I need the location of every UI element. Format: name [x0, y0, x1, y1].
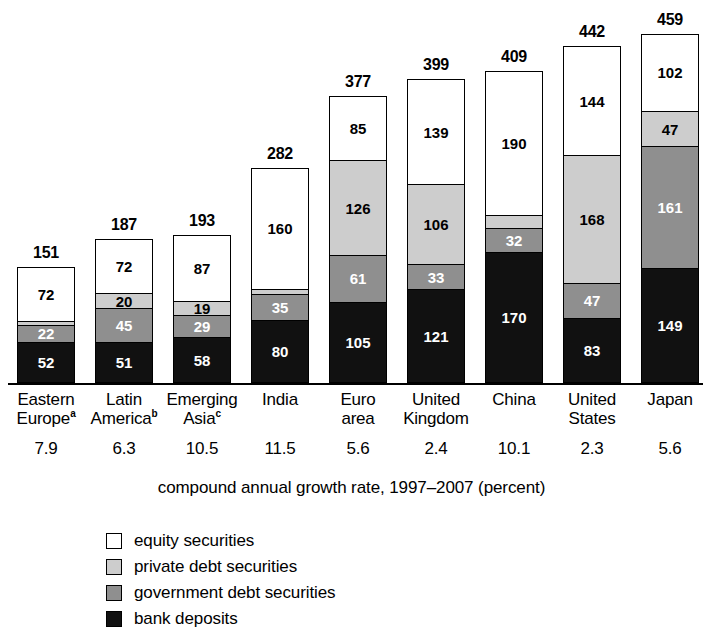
- bar-total-label: 399: [423, 56, 449, 74]
- bar-stack[interactable]: 522272: [17, 267, 75, 383]
- bar-segment-label: 20: [116, 294, 133, 309]
- bar-stack[interactable]: 1056112685: [329, 96, 387, 383]
- bar-segment-label: 106: [423, 217, 448, 232]
- axis-caption: compound annual growth rate, 1997–2007 (…: [0, 478, 703, 498]
- bar-segment-label: 47: [584, 293, 601, 308]
- bar-stack[interactable]: 17032190: [485, 71, 543, 383]
- bar-group: 4428347168144: [563, 46, 621, 383]
- category-label: Asiac: [157, 409, 247, 428]
- bar-group: 40917032190: [485, 71, 543, 383]
- bar-group: 45914916147102: [641, 34, 699, 383]
- bar-segment: 20: [96, 294, 152, 309]
- bar-segment: 33: [408, 265, 464, 290]
- bar-segment: 161: [642, 147, 698, 269]
- legend-swatch-bank: [106, 611, 122, 627]
- bar-group: 3771056112685: [329, 96, 387, 383]
- bar-segment-label: 168: [579, 212, 604, 227]
- growth-rate-value: 6.3: [79, 439, 169, 459]
- bar-group: 2828035160: [251, 168, 309, 383]
- category-label: area: [313, 409, 403, 428]
- category-tick: EasternEuropea7.9: [1, 390, 91, 459]
- legend-item[interactable]: private debt securities: [106, 554, 336, 580]
- footnote-marker: a: [70, 408, 75, 419]
- bar-segment: 47: [564, 284, 620, 320]
- axis-baseline: [8, 383, 703, 385]
- bar-group: 39912133106139: [407, 79, 465, 383]
- bar-segment-label: 83: [584, 343, 601, 358]
- growth-rate-value: 5.6: [625, 439, 703, 459]
- category-label: India: [235, 390, 325, 409]
- bar-total-label: 442: [579, 23, 605, 41]
- legend-item[interactable]: equity securities: [106, 528, 336, 554]
- growth-rate-value: 10.5: [157, 439, 247, 459]
- bar-segment-label: 72: [116, 259, 133, 274]
- bar-total-label: 193: [189, 212, 215, 230]
- category-tick: UnitedStates2.3: [547, 390, 637, 459]
- bar-group: 19358291987: [173, 235, 231, 383]
- bar-segment-label: 80: [272, 344, 289, 359]
- bar-segment: 106: [408, 185, 464, 265]
- footnote-marker: c: [215, 408, 220, 419]
- bar-stack[interactable]: 8347168144: [563, 46, 621, 383]
- bar-stack[interactable]: 12133106139: [407, 79, 465, 383]
- bar-segment: 168: [564, 156, 620, 283]
- legend-item[interactable]: government debt securities: [106, 580, 336, 606]
- bar-stack[interactable]: 14916147102: [641, 34, 699, 383]
- category-label: United: [391, 390, 481, 409]
- bar-segment: 160: [252, 169, 308, 290]
- category-label: Americab: [79, 409, 169, 428]
- chart-legend: equity securitiesprivate debt securities…: [106, 528, 336, 632]
- bar-segment: 102: [642, 35, 698, 112]
- bar-segment: 22: [18, 326, 74, 343]
- bar-segment-label: 105: [345, 335, 370, 350]
- bar-total-label: 282: [267, 145, 293, 163]
- bar-segment: 47: [642, 112, 698, 148]
- bar-total-label: 459: [657, 11, 683, 29]
- bar-segment-label: 29: [194, 319, 211, 334]
- bar-segment-label: 126: [345, 201, 370, 216]
- bar-segment: 72: [18, 268, 74, 323]
- bar-segment-label: 51: [116, 355, 133, 370]
- bar-segment-label: 58: [194, 353, 211, 368]
- bar-total-label: 151: [33, 244, 59, 262]
- bar-total-label: 409: [501, 48, 527, 66]
- category-tick: LatinAmericab6.3: [79, 390, 169, 459]
- bar-segment: 45: [96, 309, 152, 343]
- bar-segment-label: 160: [267, 221, 292, 236]
- bar-segment: 83: [564, 319, 620, 382]
- bar-segment: 29: [174, 316, 230, 338]
- growth-rate-value: 11.5: [235, 439, 325, 459]
- bar-stack[interactable]: 8035160: [251, 168, 309, 383]
- stacked-bar-chart: 1515222721875145207219358291987282803516…: [0, 0, 703, 634]
- category-label: Europea: [1, 409, 91, 428]
- bar-segment: 87: [174, 236, 230, 302]
- bar-segment: 72: [96, 240, 152, 295]
- growth-rate-value: 10.1: [469, 439, 559, 459]
- bar-segment: [18, 322, 74, 326]
- bar-segment-label: 19: [194, 301, 211, 316]
- category-axis: EasternEuropea7.9LatinAmericab6.3Emergin…: [0, 390, 703, 490]
- bar-segment: [486, 216, 542, 229]
- bar-segment-label: 45: [116, 318, 133, 333]
- bar-segment: 144: [564, 47, 620, 156]
- bar-segment: 105: [330, 303, 386, 382]
- category-label: Kingdom: [391, 409, 481, 428]
- category-tick: Euroarea5.6: [313, 390, 403, 459]
- bar-stack[interactable]: 58291987: [173, 235, 231, 383]
- category-tick: India11.5: [235, 390, 325, 459]
- bar-stack[interactable]: 51452072: [95, 239, 153, 383]
- bar-segment: 32: [486, 229, 542, 253]
- bar-segment-label: 161: [657, 200, 682, 215]
- category-tick: Japan5.6: [625, 390, 703, 459]
- bar-segment-label: 33: [428, 270, 445, 285]
- bar-segment-label: 87: [194, 261, 211, 276]
- bar-segment-label: 47: [662, 122, 679, 137]
- bar-segment: 80: [252, 321, 308, 382]
- bar-segment-label: 149: [657, 318, 682, 333]
- bar-segment: 19: [174, 302, 230, 316]
- legend-item[interactable]: bank deposits: [106, 606, 336, 632]
- bar-segment: 51: [96, 343, 152, 382]
- bar-segment-label: 139: [423, 125, 448, 140]
- bar-segment: 85: [330, 97, 386, 161]
- bar-segment-label: 102: [657, 65, 682, 80]
